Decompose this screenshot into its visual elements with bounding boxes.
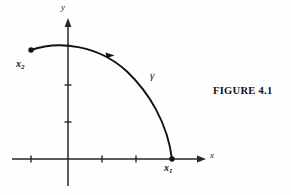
x-axis-arrow-icon xyxy=(197,156,206,163)
coordinate-plot xyxy=(0,0,291,195)
figure-container: y x x2 x1 γ FIGURE 4.1 xyxy=(0,0,291,195)
x-axis-label: x xyxy=(210,151,214,160)
point-x2-dot xyxy=(28,47,33,52)
figure-caption: FIGURE 4.1 xyxy=(213,86,273,97)
gamma-curve-label: γ xyxy=(150,70,154,81)
point-label-x1-subscript: 1 xyxy=(169,167,173,175)
gamma-curve xyxy=(31,45,172,159)
curve-direction-arrow-icon xyxy=(106,52,115,58)
y-axis-label: y xyxy=(61,3,65,12)
point-label-x2-subscript: 2 xyxy=(21,63,25,71)
point-label-x1: x1 xyxy=(164,163,173,175)
point-label-x2: x2 xyxy=(16,59,25,71)
point-x1-dot xyxy=(169,156,174,161)
y-axis-arrow-icon xyxy=(65,18,72,27)
